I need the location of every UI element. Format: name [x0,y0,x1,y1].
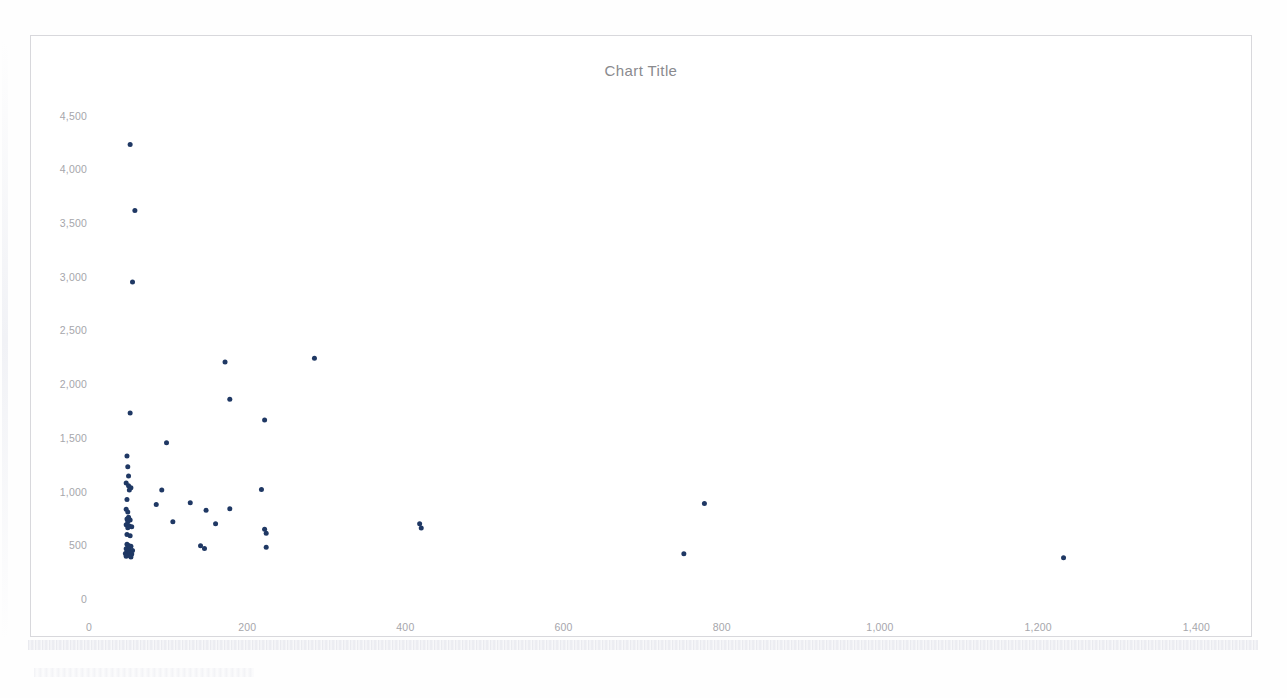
plot-area[interactable]: 05001,0001,5002,0002,5003,0003,5004,0004… [31,36,1251,636]
y-axis-tick-label: 1,000 [45,486,87,498]
scatter-point [128,554,133,559]
scatter-point [124,497,129,502]
y-axis-tick-label: 0 [45,593,87,605]
scatter-point [1061,555,1066,560]
scatter-point [125,509,130,514]
x-axis-tick-label: 0 [86,621,92,633]
scatter-point [417,521,422,526]
scatter-point [127,487,132,492]
scatter-point [124,454,129,459]
scatter-point [125,464,130,469]
scatter-point [128,533,133,538]
scatter-point [188,500,193,505]
x-axis-tick-label: 1,400 [1183,621,1210,633]
scatter-point [259,487,264,492]
x-axis-tick-label: 400 [396,621,414,633]
scatter-point [264,531,269,536]
scatter-plot-svg [31,36,1251,636]
x-axis-tick-label: 200 [238,621,256,633]
x-axis-tick-label: 1,000 [866,621,893,633]
scatter-point [202,546,207,551]
chart-container[interactable]: Chart Title 05001,0001,5002,0002,5003,00… [30,35,1252,637]
scatter-point [126,473,131,478]
scatter-point [227,397,232,402]
scatter-point [702,501,707,506]
y-axis-tick-label: 3,000 [45,271,87,283]
scatter-point [262,418,267,423]
scan-artifact-smudge [34,668,254,677]
scan-artifact-band [28,640,1258,650]
scanned-page-background: Chart Title 05001,0001,5002,0002,5003,00… [0,0,1287,698]
scatter-point [128,142,133,147]
scatter-point [227,506,232,511]
scatter-point [681,551,686,556]
scatter-point [204,508,209,513]
scatter-point [213,521,218,526]
scatter-point [124,554,129,559]
x-axis-tick-label: 600 [555,621,573,633]
scatter-point [164,440,169,445]
y-axis-tick-label: 4,500 [45,110,87,122]
scatter-point [128,411,133,416]
y-axis-tick-label: 500 [45,539,87,551]
y-axis-tick-label: 3,500 [45,217,87,229]
y-axis-tick-label: 1,500 [45,432,87,444]
scan-artifact-left-edge [2,40,8,640]
scatter-markers [123,142,1066,560]
x-axis-tick-label: 1,200 [1025,621,1052,633]
scatter-point [312,356,317,361]
scatter-point [159,487,164,492]
scatter-point [125,525,130,530]
y-axis-tick-label: 4,000 [45,163,87,175]
y-axis-tick-label: 2,000 [45,378,87,390]
scatter-point [170,519,175,524]
scatter-point [264,545,269,550]
x-axis-tick-label: 800 [713,621,731,633]
scatter-point [223,360,228,365]
scatter-point [130,280,135,285]
scatter-point [419,526,424,531]
scatter-point [154,502,159,507]
y-axis-tick-label: 2,500 [45,324,87,336]
scatter-point [132,208,137,213]
